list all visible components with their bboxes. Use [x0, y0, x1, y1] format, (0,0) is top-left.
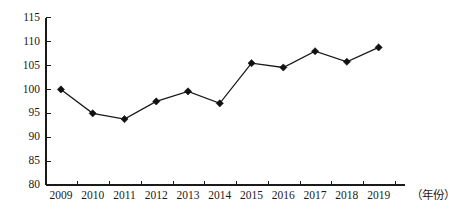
y-axis: 80859095100105110115 — [23, 11, 51, 190]
x-axis-tick-label: 2012 — [145, 189, 168, 201]
data-point-marker — [153, 98, 160, 105]
data-point-marker — [184, 88, 191, 95]
x-axis: 2009201020112012201320142015201620172018… — [46, 181, 405, 202]
x-axis-tick-label: 2018 — [335, 189, 358, 201]
y-axis-tick-label: 105 — [23, 59, 41, 71]
x-axis-caption: （年份） — [411, 188, 455, 201]
y-axis-tick-label: 90 — [29, 130, 41, 142]
data-point-marker — [343, 58, 350, 65]
y-axis-tick-label: 110 — [23, 35, 40, 47]
data-point-marker — [311, 48, 318, 55]
x-axis-tick-label: 2010 — [81, 189, 104, 201]
x-axis-tick-label: 2013 — [177, 189, 200, 201]
x-axis-tick-label: 2015 — [240, 189, 263, 201]
x-axis-tick-label: 2019 — [367, 189, 390, 201]
data-point-marker — [375, 44, 382, 51]
y-axis-tick-label: 95 — [29, 106, 41, 118]
x-axis-tick-label: 2014 — [208, 189, 231, 201]
y-axis-tick-label: 100 — [23, 83, 41, 95]
y-axis-tick-label: 85 — [29, 154, 41, 166]
x-axis-tick-label: 2016 — [272, 189, 295, 201]
x-axis-tick-label: 2009 — [49, 189, 72, 201]
x-axis-tick-label: 2017 — [304, 189, 327, 201]
y-axis-tick-label: 80 — [29, 178, 41, 190]
data-point-marker — [280, 64, 287, 71]
series-polyline — [61, 47, 379, 119]
chart-canvas: 80859095100105110115 2009201020112012201… — [0, 0, 466, 216]
data-point-marker — [121, 115, 128, 122]
line-chart: 80859095100105110115 2009201020112012201… — [0, 0, 466, 216]
data-markers — [57, 44, 382, 123]
data-series — [61, 47, 379, 119]
y-axis-tick-label: 115 — [23, 11, 40, 23]
x-axis-tick-label: 2011 — [113, 189, 136, 201]
